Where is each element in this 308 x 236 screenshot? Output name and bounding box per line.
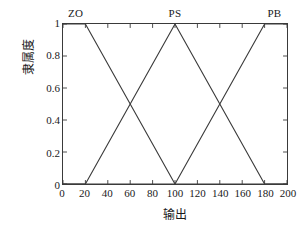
series-line-zo bbox=[63, 24, 287, 184]
plot-canvas bbox=[63, 24, 287, 184]
x-tick-label: 40 bbox=[102, 188, 113, 199]
x-tick-label: 180 bbox=[257, 188, 274, 199]
x-tick-label: 20 bbox=[79, 188, 90, 199]
x-tick-label: 100 bbox=[167, 188, 184, 199]
x-tick-label: 140 bbox=[212, 188, 229, 199]
x-tick-label: 160 bbox=[235, 188, 252, 199]
y-tick-label: 1 bbox=[55, 18, 61, 29]
plot-area bbox=[62, 23, 288, 185]
x-tick-label: 120 bbox=[189, 188, 206, 199]
membership-function-chart: 020406080100120140160180200 00.20.40.60.… bbox=[0, 0, 308, 236]
y-tick-label: 0.4 bbox=[46, 115, 60, 126]
series-line-pb bbox=[63, 24, 287, 184]
series-label-pb: PB bbox=[266, 7, 282, 19]
y-tick-label: 0.8 bbox=[46, 50, 60, 61]
series-label-ps: PS bbox=[168, 7, 183, 19]
y-tick-label: 0 bbox=[55, 180, 61, 191]
series-label-zo: ZO bbox=[67, 7, 84, 19]
y-axis-title: 隶属度 bbox=[19, 2, 36, 112]
x-tick-label: 200 bbox=[280, 188, 297, 199]
x-axis-title: 输出 bbox=[62, 205, 288, 222]
y-tick-label: 0.2 bbox=[46, 147, 60, 158]
x-tick-label: 80 bbox=[147, 188, 158, 199]
series-line-ps bbox=[63, 24, 287, 184]
x-tick-label: 60 bbox=[124, 188, 135, 199]
y-tick-label: 0.6 bbox=[46, 82, 60, 93]
